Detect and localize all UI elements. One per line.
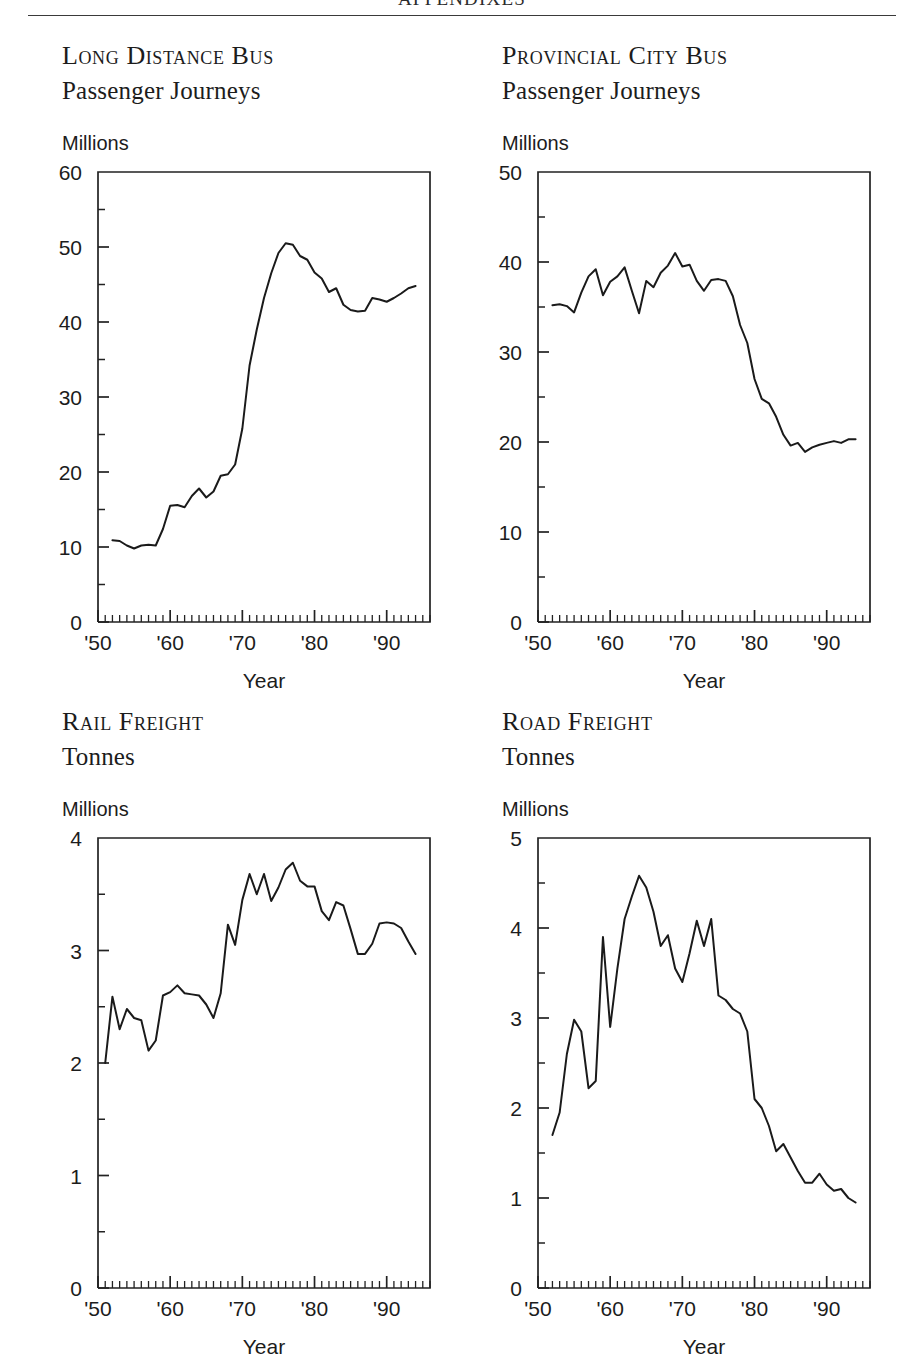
x-tick-label: '60: [596, 631, 623, 654]
x-tick-label: '70: [669, 1297, 696, 1320]
y-tick-label: 3: [70, 940, 82, 963]
x-tick-label: '60: [156, 1297, 183, 1320]
data-series-line: [105, 863, 415, 1063]
x-tick-label: '90: [373, 1297, 400, 1320]
y-tick-label: 5: [510, 827, 522, 850]
y-tick-label: 30: [59, 386, 82, 409]
y-tick-label: 0: [70, 1277, 82, 1300]
panel-provincial-city-bus: Provincial City Bus Passenger Journeys M…: [440, 24, 902, 696]
x-tick-label: '80: [741, 631, 768, 654]
x-tick-label: '90: [813, 1297, 840, 1320]
y-tick-label: 40: [59, 311, 82, 334]
y-tick-label: 0: [510, 611, 522, 634]
x-tick-label: '90: [813, 631, 840, 654]
y-tick-label: 10: [59, 536, 82, 559]
y-tick-label: 20: [499, 431, 522, 454]
plot-frame: [538, 172, 870, 622]
x-tick-label: '80: [301, 1297, 328, 1320]
y-tick-label: 40: [499, 251, 522, 274]
chart-road-freight: 012345'50'60'70'80'90Year: [440, 690, 902, 1358]
y-tick-label: 2: [510, 1097, 522, 1120]
y-tick-label: 2: [70, 1052, 82, 1075]
x-tick-label: '50: [524, 631, 551, 654]
y-tick-label: 0: [510, 1277, 522, 1300]
y-tick-label: 4: [510, 917, 522, 940]
plot-frame: [538, 838, 870, 1288]
y-tick-label: 30: [499, 341, 522, 364]
chart-rail-freight: 01234'50'60'70'80'90Year: [0, 690, 462, 1358]
y-tick-label: 1: [70, 1165, 82, 1188]
y-tick-label: 60: [59, 161, 82, 184]
y-tick-label: 20: [59, 461, 82, 484]
x-tick-label: '70: [229, 631, 256, 654]
x-axis-label: Year: [243, 1335, 285, 1358]
x-tick-label: '80: [741, 1297, 768, 1320]
x-axis-label: Year: [683, 1335, 725, 1358]
y-tick-label: 1: [510, 1187, 522, 1210]
x-tick-label: '70: [229, 1297, 256, 1320]
data-series-line: [552, 253, 855, 452]
data-series-line: [112, 243, 415, 548]
y-tick-label: 0: [70, 611, 82, 634]
panel-long-distance-bus: Long Distance Bus Passenger Journeys Mil…: [0, 24, 462, 696]
y-tick-label: 4: [70, 827, 82, 850]
x-tick-label: '50: [524, 1297, 551, 1320]
y-tick-label: 10: [499, 521, 522, 544]
x-axis-label: Year: [683, 669, 725, 692]
chart-provincial-city-bus: 01020304050'50'60'70'80'90Year: [440, 24, 902, 696]
header-rule: [28, 15, 896, 16]
x-tick-label: '60: [156, 631, 183, 654]
x-tick-label: '90: [373, 631, 400, 654]
y-tick-label: 50: [59, 236, 82, 259]
running-head: APPENDIXES: [0, 0, 924, 10]
plot-frame: [98, 172, 430, 622]
x-tick-label: '80: [301, 631, 328, 654]
panel-rail-freight: Rail Freight Tonnes Millions 01234'50'60…: [0, 690, 462, 1358]
x-tick-label: '70: [669, 631, 696, 654]
chart-long-distance-bus: 0102030405060'50'60'70'80'90Year: [0, 24, 462, 696]
x-tick-label: '50: [84, 631, 111, 654]
x-tick-label: '60: [596, 1297, 623, 1320]
y-tick-label: 3: [510, 1007, 522, 1030]
x-tick-label: '50: [84, 1297, 111, 1320]
plot-frame: [98, 838, 430, 1288]
y-tick-label: 50: [499, 161, 522, 184]
panel-road-freight: Road Freight Tonnes Millions 012345'50'6…: [440, 690, 902, 1358]
x-axis-label: Year: [243, 669, 285, 692]
data-series-line: [552, 876, 855, 1203]
